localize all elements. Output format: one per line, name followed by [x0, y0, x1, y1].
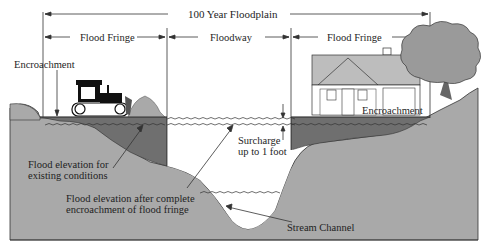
- encroachment-left-label: Encroachment: [14, 59, 75, 70]
- surcharge-label-line1: Surcharge: [238, 135, 280, 146]
- after-encroachment-label-line1: Flood elevation after complete: [66, 193, 195, 204]
- zone-label-floodway: Floodway: [208, 32, 254, 43]
- dirt-pile: [128, 96, 165, 117]
- stream-channel-label: Stream Channel: [287, 222, 354, 233]
- surcharge-label-line2: up to 1 foot: [238, 146, 287, 157]
- after-encroachment-label-line2: encroachment of flood fringe: [66, 204, 189, 215]
- zone-label-right-flood-fringe: Flood Fringe: [325, 32, 384, 43]
- title-100-year-floodplain: 100 Year Floodplain: [186, 9, 280, 20]
- left-bank: [10, 104, 40, 120]
- existing-conditions-label-line2: existing conditions: [28, 170, 108, 181]
- existing-conditions-label-line1: Flood elevation for: [28, 159, 108, 170]
- bulldozer-icon: [72, 80, 132, 116]
- zone-label-left-flood-fringe: Flood Fringe: [78, 32, 137, 43]
- encroachment-right-label: Encroachment: [362, 105, 423, 116]
